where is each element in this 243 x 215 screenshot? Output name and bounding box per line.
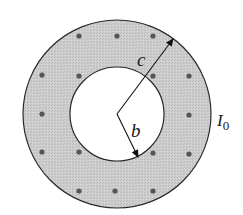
current-dot <box>76 33 81 38</box>
label-b: b <box>131 120 141 141</box>
current-dot <box>39 111 44 116</box>
annulus-diagram: c b I0 <box>0 0 243 215</box>
current-dot <box>186 112 191 117</box>
label-c: c <box>137 49 146 70</box>
current-dot <box>76 73 81 78</box>
current-dot <box>150 33 155 38</box>
current-dot <box>76 149 81 154</box>
label-current-subscript: 0 <box>223 118 230 133</box>
current-dot <box>39 149 44 154</box>
current-dot <box>150 73 155 78</box>
current-dot <box>186 151 191 156</box>
current-dot <box>186 73 191 78</box>
current-dot <box>150 188 155 193</box>
current-dot <box>76 188 81 193</box>
current-dot <box>39 72 44 77</box>
current-dot <box>114 33 119 38</box>
current-dot <box>112 188 117 193</box>
label-current: I0 <box>216 111 229 133</box>
current-dot <box>150 150 155 155</box>
